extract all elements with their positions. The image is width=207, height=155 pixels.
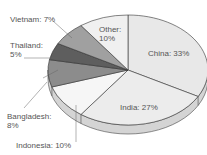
label-thailand: Thailand: 5% xyxy=(10,41,43,59)
label-thailand-name: Thailand: xyxy=(10,41,43,50)
label-vietnam: Vietnam: 7% xyxy=(10,15,55,24)
label-bangladesh-value: 8% xyxy=(7,121,19,130)
label-china: China: 33% xyxy=(148,49,189,58)
label-indonesia: Indonesia: 10% xyxy=(16,141,71,150)
label-thailand-value: 5% xyxy=(10,50,22,59)
label-bangladesh: Bangladesh: 8% xyxy=(7,112,51,130)
label-bangladesh-name: Bangladesh: xyxy=(7,112,51,121)
label-other-name: Other: xyxy=(99,25,121,34)
label-other-value: 10% xyxy=(99,34,115,43)
label-other: Other: 10% xyxy=(99,25,121,43)
label-india: India: 27% xyxy=(120,103,158,112)
